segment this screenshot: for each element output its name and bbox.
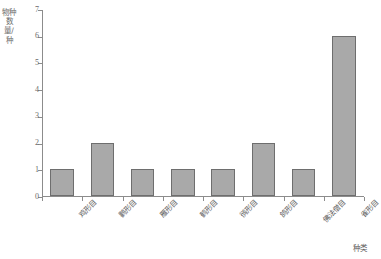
bar <box>292 169 315 196</box>
x-tick-label: 雁形目 <box>159 199 180 220</box>
y-tick-label: 6 <box>35 31 39 41</box>
bar <box>131 169 154 196</box>
plot-area: 01234567 <box>42 10 364 197</box>
x-tick-label: 雀形目 <box>360 199 381 220</box>
bar <box>332 36 355 196</box>
y-tick-label: 3 <box>35 111 39 121</box>
bar <box>252 143 275 196</box>
x-tick-label: 鹳形目 <box>119 199 140 220</box>
y-tick-label: 5 <box>35 58 39 68</box>
x-tick-label: 鸽形目 <box>280 199 301 220</box>
y-tick-label: 2 <box>35 138 39 148</box>
y-tick-label: 1 <box>35 165 39 175</box>
x-tick-label: 鸡形目 <box>78 199 99 220</box>
x-axis-category-labels: 鸡形目鹳形目雁形目鹤形目鸻形目鸽形目佛法僧目雀形目 <box>42 199 364 243</box>
y-tick-label: 4 <box>35 85 39 95</box>
x-tick-mark <box>364 197 365 201</box>
y-axis-title: 物种数量/种 <box>2 8 16 45</box>
y-tick-label: 7 <box>35 5 39 15</box>
x-tick-label: 佛法僧目 <box>322 199 348 225</box>
y-axis-line <box>42 10 43 197</box>
y-tick-label: 0 <box>35 192 39 202</box>
x-tick-label: 鸻形目 <box>239 199 260 220</box>
bar <box>171 169 194 196</box>
bar <box>211 169 234 196</box>
bar <box>50 169 73 196</box>
bar <box>91 143 114 196</box>
x-axis-title: 种类 <box>353 244 367 253</box>
x-tick-label: 鹤形目 <box>199 199 220 220</box>
